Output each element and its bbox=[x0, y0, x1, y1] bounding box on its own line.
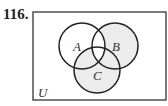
set-b-label: B bbox=[112, 39, 120, 54]
set-a-label: A bbox=[72, 39, 81, 54]
universe-label: U bbox=[38, 85, 49, 100]
venn-diagram: A B C U bbox=[0, 0, 168, 106]
set-c-label: C bbox=[93, 68, 102, 83]
